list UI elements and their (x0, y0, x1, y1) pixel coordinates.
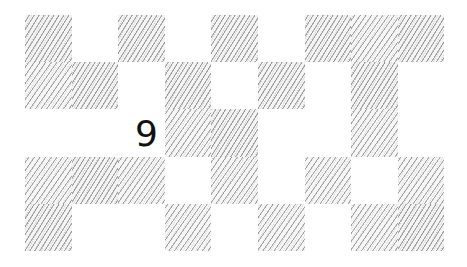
grid-cell-shaded[interactable] (211, 109, 258, 156)
grid-cell-shaded[interactable] (305, 157, 352, 204)
grid-cell-empty[interactable] (72, 15, 119, 62)
grid-cell-shaded[interactable] (25, 62, 72, 109)
grid-cell-shaded[interactable] (25, 157, 72, 204)
grid-cell-shaded[interactable] (351, 15, 398, 62)
grid-cell-empty[interactable] (398, 62, 445, 109)
grid-cell-empty[interactable] (165, 157, 212, 204)
grid-cell-shaded[interactable] (398, 157, 445, 204)
grid-cell-shaded[interactable] (351, 109, 398, 156)
grid-cell-empty[interactable] (211, 62, 258, 109)
grid-cell-empty[interactable] (305, 204, 352, 251)
grid-cell-shaded[interactable] (258, 62, 305, 109)
grid-cell-shaded[interactable] (165, 109, 212, 156)
grid-cell-empty[interactable] (305, 62, 352, 109)
grid-cell-shaded[interactable] (398, 15, 445, 62)
grid-cell-shaded[interactable] (25, 15, 72, 62)
grid-cell-empty[interactable] (72, 109, 119, 156)
grid-cell-shaded[interactable] (305, 15, 352, 62)
grid-cell-empty[interactable] (72, 204, 119, 251)
grid-cell-empty[interactable] (118, 62, 165, 109)
grid-cell-shaded[interactable] (118, 15, 165, 62)
grid-cell-empty[interactable] (211, 204, 258, 251)
grid-cell-empty[interactable] (258, 15, 305, 62)
grid-cell-empty[interactable] (118, 204, 165, 251)
grid-cell-empty[interactable] (258, 157, 305, 204)
grid-cell-empty[interactable] (351, 157, 398, 204)
grid-cell-shaded[interactable] (72, 157, 119, 204)
grid-cell-clue[interactable]: 9 (118, 109, 165, 156)
puzzle-board: 9 (25, 15, 445, 251)
clue-number: 9 (118, 109, 165, 156)
grid-cell-shaded[interactable] (258, 204, 305, 251)
grid-cell-shaded[interactable] (211, 157, 258, 204)
grid-cell-shaded[interactable] (165, 204, 212, 251)
grid-cell-empty[interactable] (25, 109, 72, 156)
grid-cell-shaded[interactable] (25, 204, 72, 251)
grid-cell-shaded[interactable] (351, 62, 398, 109)
grid-cell-empty[interactable] (258, 109, 305, 156)
grid-cell-shaded[interactable] (118, 157, 165, 204)
grid-cell-empty[interactable] (305, 109, 352, 156)
grid-cell-shaded[interactable] (211, 15, 258, 62)
grid-cell-shaded[interactable] (72, 62, 119, 109)
grid-cell-empty[interactable] (165, 15, 212, 62)
grid-cell-empty[interactable] (398, 109, 445, 156)
grid-cell-shaded[interactable] (398, 204, 445, 251)
grid-cell-shaded[interactable] (165, 62, 212, 109)
grid-cell-shaded[interactable] (351, 204, 398, 251)
